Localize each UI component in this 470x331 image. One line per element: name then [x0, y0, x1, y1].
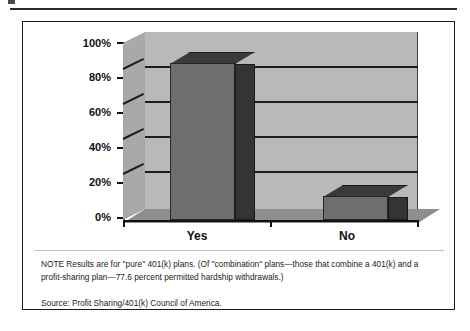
page-top-rule	[10, 8, 457, 10]
x-axis-tick-middle	[270, 220, 272, 227]
x-axis-tick-start	[123, 220, 125, 227]
bar-yes-side-face	[235, 64, 255, 220]
y-tick-label-60: 60%	[89, 106, 111, 118]
figure-container: 100% 80% 60% 40% 20% 0%	[22, 21, 455, 310]
x-axis-tick-end	[417, 220, 419, 227]
notes-divider	[35, 250, 444, 251]
bar-no[interactable]	[323, 185, 388, 220]
bar-no-front-face	[323, 196, 388, 220]
x-category-label-no: No	[311, 229, 383, 243]
y-axis-labels: 100% 80% 60% 40% 20% 0%	[23, 22, 123, 232]
y-tick-label-80: 80%	[89, 71, 111, 83]
x-category-label-yes: Yes	[161, 229, 233, 243]
scan-artifact-fragment	[8, 0, 15, 4]
source-paragraph: Source: Profit Sharing/401(k) Council of…	[41, 297, 439, 310]
y-tick-label-20: 20%	[89, 176, 111, 188]
y-tick-label-40: 40%	[89, 141, 111, 153]
chart-3d-scene	[123, 32, 443, 224]
y-tick-label-0: 0%	[95, 211, 111, 223]
bar-yes[interactable]	[170, 52, 235, 220]
chart-plot-area: 100% 80% 60% 40% 20% 0%	[23, 22, 456, 232]
bar-yes-front-face	[170, 63, 235, 220]
y-tick-label-100: 100%	[83, 37, 111, 49]
note-paragraph: NOTE Results are for "pure" 401(k) plans…	[41, 258, 439, 283]
bar-no-side-face	[388, 197, 408, 220]
